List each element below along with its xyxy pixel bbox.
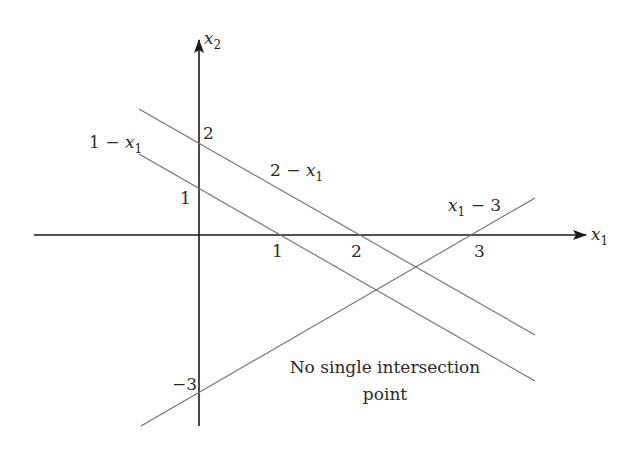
y-axis-label-var: x (204, 28, 214, 48)
label-2-minus-x1-sub: 1 (315, 170, 323, 184)
label-1-minus-x1-pre: 1 − (89, 132, 125, 152)
tick-x-3: 3 (474, 241, 485, 261)
label-x1-minus-3: x1 − 3 (448, 195, 501, 219)
x-axis-label-sub: 1 (601, 234, 609, 248)
diagram-figure: x2 x1 1 2 3 2 1 −3 1 − x1 2 − x1 x1 − 3 … (0, 0, 636, 451)
y-axis-label: x2 (204, 28, 221, 52)
label-1-minus-x1-sub: 1 (134, 142, 142, 156)
label-2-minus-x1: 2 − x1 (270, 160, 323, 184)
x-axis-label: x1 (591, 224, 608, 248)
y-axis-label-sub: 2 (214, 38, 222, 52)
label-x1-minus-3-var: x (448, 195, 458, 215)
label-2-minus-x1-pre: 2 − (270, 160, 306, 180)
annotation-line-1: No single intersection (290, 357, 481, 377)
annotation-line-2: point (363, 384, 408, 404)
x-axis-label-var: x (591, 224, 601, 244)
tick-y-2: 2 (203, 123, 214, 143)
tick-x-2: 2 (351, 241, 362, 261)
label-1-minus-x1: 1 − x1 (89, 132, 142, 156)
tick-y-neg3: −3 (172, 374, 197, 394)
label-2-minus-x1-var: x (306, 160, 316, 180)
tick-y-1: 1 (180, 188, 191, 208)
line-x1-minus-3 (141, 198, 535, 426)
tick-x-1: 1 (272, 241, 283, 261)
diagram-svg: x2 x1 1 2 3 2 1 −3 1 − x1 2 − x1 x1 − 3 … (0, 0, 636, 451)
label-x1-minus-3-post: − 3 (465, 195, 501, 215)
label-1-minus-x1-var: x (125, 132, 135, 152)
label-x1-minus-3-sub: 1 (458, 205, 466, 219)
